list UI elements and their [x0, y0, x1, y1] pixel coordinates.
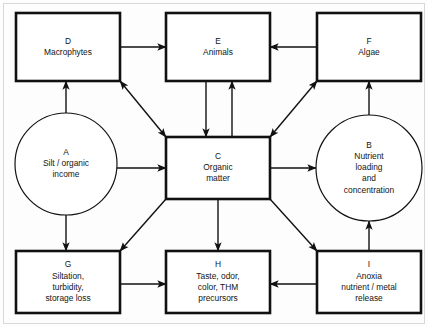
node-h[interactable]: HTaste, odor,color, THMprecursors [166, 251, 270, 313]
node-c[interactable]: COrganicmatter [166, 137, 270, 199]
node-g[interactable]: GSiltation,turbidity,storage loss [16, 251, 120, 313]
edge-C-to-I [270, 199, 317, 251]
node-label-h: precursors [198, 293, 238, 303]
node-label-b: loading [355, 162, 382, 172]
node-label-e: Animals [203, 47, 233, 57]
node-key-a: A [63, 147, 69, 157]
node-a[interactable]: ASilt / organicincome [15, 113, 117, 215]
node-label-h: Taste, odor, [196, 271, 239, 281]
node-b[interactable]: BNutrientloadingandconcentration [316, 115, 422, 221]
node-label-g: Siltation, [52, 271, 84, 281]
node-label-h: color, THM [198, 282, 238, 292]
node-key-h: H [215, 259, 221, 269]
node-key-i: I [368, 259, 370, 269]
node-label-g: storage loss [45, 293, 90, 303]
node-label-i: Anoxia [356, 271, 382, 281]
node-label-i: nutrient / metal [341, 282, 397, 292]
node-label-f: Algae [358, 47, 380, 57]
node-label-a: income [53, 169, 80, 179]
node-e[interactable]: EAnimals [166, 13, 270, 81]
edge-D-to-C-bidirectional [120, 81, 166, 137]
node-label-i: release [355, 293, 383, 303]
node-key-d: D [65, 36, 71, 46]
node-label-b: and [362, 173, 376, 183]
node-label-g: turbidity, [52, 282, 83, 292]
node-label-c: matter [206, 173, 230, 183]
edge-C-to-G [120, 199, 166, 251]
node-d[interactable]: DMacrophytes [16, 13, 120, 81]
node-key-f: F [366, 36, 371, 46]
node-label-b: Nutrient [354, 151, 384, 161]
node-key-b: B [366, 140, 372, 150]
node-key-c: C [215, 151, 221, 161]
node-key-e: E [215, 36, 221, 46]
diagram-canvas: DMacrophytesEAnimalsFAlgaeASilt / organi… [0, 0, 428, 327]
node-f[interactable]: FAlgae [317, 13, 421, 81]
edge-C-to-F-bidirectional [270, 81, 317, 137]
node-label-d: Macrophytes [44, 47, 92, 57]
diagram-svg: DMacrophytesEAnimalsFAlgaeASilt / organi… [0, 0, 428, 327]
node-label-b: concentration [344, 185, 395, 195]
node-layer: DMacrophytesEAnimalsFAlgaeASilt / organi… [15, 13, 422, 313]
node-key-g: G [65, 259, 72, 269]
node-label-a: Silt / organic [43, 158, 89, 168]
node-label-c: Organic [203, 162, 232, 172]
node-i[interactable]: IAnoxianutrient / metalrelease [317, 251, 421, 313]
